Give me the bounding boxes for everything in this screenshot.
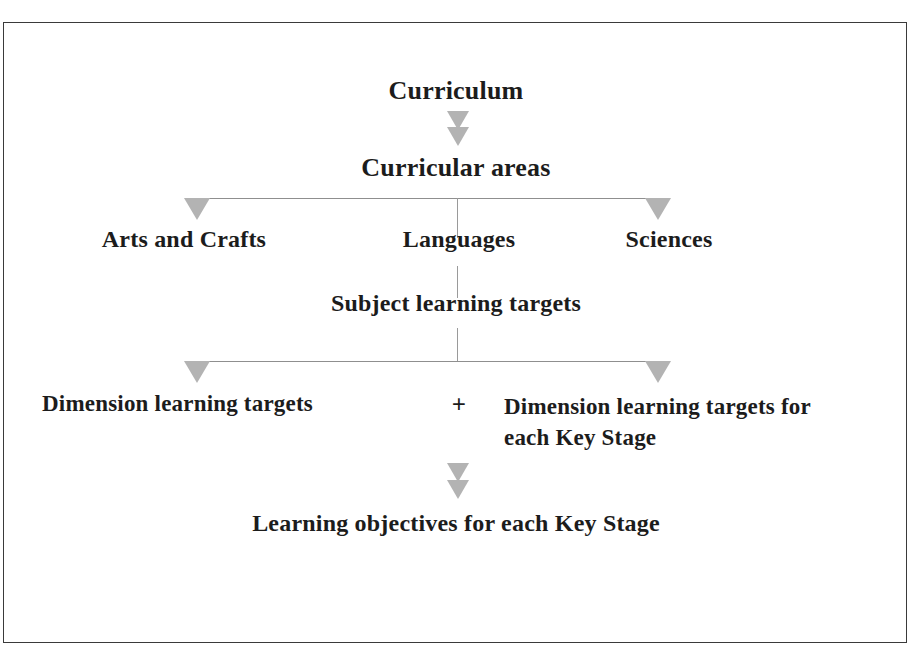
node-curricular-areas: Curricular areas [4,153,908,183]
down-arrow-icon [184,198,210,220]
diagram-canvas: Curriculum Curricular areas Arts and Cra… [0,0,914,659]
figure-frame: Curriculum Curricular areas Arts and Cra… [3,22,907,643]
node-languages: Languages [344,226,574,253]
down-arrow-icon [447,480,469,499]
node-sciences: Sciences [574,226,764,253]
branch-horizontal-line [195,361,667,362]
node-subject-learning-targets: Subject learning targets [4,290,908,317]
down-arrow-icon [645,361,671,383]
node-curriculum: Curriculum [4,76,908,106]
node-dimension-learning-targets: Dimension learning targets [42,391,442,417]
down-arrow-icon [447,127,469,146]
node-arts-and-crafts: Arts and Crafts [49,226,319,253]
node-dimension-learning-targets-key-stage: Dimension learning targets for each Key … [504,391,839,453]
down-arrow-icon [645,198,671,220]
down-arrow-icon [184,361,210,383]
node-plus-operator: + [436,391,482,419]
connector-subject-to-branch [457,328,458,362]
branch-horizontal-line [195,198,667,199]
node-learning-objectives: Learning objectives for each Key Stage [4,510,908,537]
